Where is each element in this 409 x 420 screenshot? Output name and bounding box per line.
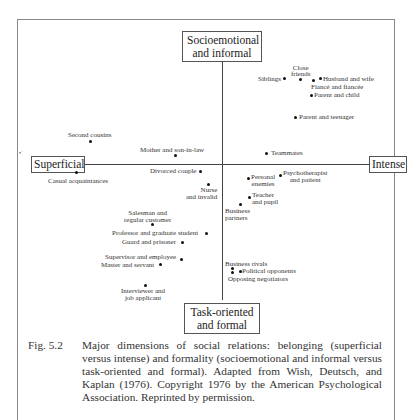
point-teammates: [265, 152, 268, 155]
point-siblings: [283, 77, 286, 80]
label-master: Master and servant: [101, 261, 154, 269]
label-fiance: Fiancé and fiancée: [311, 83, 363, 91]
point-fiance: [312, 79, 315, 82]
label-nurse-2: and invalid: [186, 194, 217, 201]
point-guard: [181, 241, 184, 244]
label-supervisor: Supervisor and employee: [105, 253, 176, 261]
point-psychotherapist: [279, 174, 282, 177]
point-professor: [205, 232, 208, 235]
label-second-cousins: Second cousins: [68, 131, 111, 139]
formality-axis: [222, 52, 223, 300]
point-parent-teen: [294, 116, 297, 119]
label-enemies-2: enemies: [251, 181, 275, 188]
label-opposing-negotiators: Opposing negotiators: [228, 275, 288, 283]
label-teacher-2: and pupil: [252, 199, 278, 206]
stray-marks: •˙: [19, 150, 23, 156]
point-close-friends: [299, 78, 302, 81]
point-casual: [75, 171, 78, 174]
label-enemies: Personal enemies: [251, 174, 275, 188]
label-professor: Professor and graduate student: [112, 229, 198, 237]
point-husband-wife: [319, 77, 322, 80]
label-partners-2: partners: [225, 215, 250, 222]
label-casual: Casual acquaintances: [48, 177, 108, 185]
point-business-rivals: [231, 267, 234, 270]
point-second-cousins: [89, 140, 92, 143]
label-political-opponents: Political opponents: [242, 267, 296, 275]
axis-label-top-line2: and informal: [187, 47, 257, 60]
point-master: [159, 263, 162, 266]
label-business-partners: Business partners: [225, 208, 250, 222]
point-opposing-negotiators: [231, 271, 234, 274]
label-salesman: Salesman and regular customer: [124, 210, 171, 224]
label-close-friends-2: friends: [291, 71, 310, 77]
label-teacher: Teacher and pupil: [252, 192, 278, 206]
label-husband-wife: Husband and wife: [323, 75, 374, 83]
axis-label-bottom: Task-oriented and formal: [184, 303, 260, 334]
caption-text: Major dimensions of social relations: be…: [82, 339, 382, 404]
label-mother-soninlaw: Mother and son-in-law: [140, 146, 204, 154]
label-interviewer-2: job applicant: [121, 295, 165, 302]
label-close-friends: Close friends: [291, 65, 310, 77]
point-mother-soninlaw: [174, 154, 177, 157]
label-nurse: Nurse and invalid: [186, 187, 217, 201]
label-salesman-2: regular customer: [124, 217, 171, 224]
label-parent-teen: Parent and teenager: [299, 113, 354, 121]
label-interviewer: Interviewer and job applicant: [121, 288, 165, 302]
belonging-axis: [84, 164, 369, 165]
point-divorced: [199, 170, 202, 173]
label-psychotherapist: Psychotherapist and patient: [283, 170, 327, 184]
axis-label-top-line1: Socioemotional: [187, 34, 257, 47]
label-siblings: Siblings: [258, 75, 281, 83]
axis-label-right: Intense: [369, 156, 407, 173]
point-business-partners: [239, 203, 242, 206]
label-guard: Guard and prisoner: [122, 238, 176, 246]
point-parent-child: [310, 94, 313, 97]
figure-number: Fig. 5.2: [28, 339, 63, 352]
axis-label-bottom-line2: and formal: [189, 319, 255, 332]
label-psych-2: and patient: [283, 177, 327, 184]
label-parent-child: Parent and child: [314, 91, 360, 99]
label-divorced: Divorced couple: [150, 167, 196, 175]
point-teacher: [248, 196, 251, 199]
point-salesman: [151, 223, 154, 226]
axis-label-top: Socioemotional and informal: [182, 31, 262, 62]
point-enemies: [247, 177, 250, 180]
point-supervisor: [180, 258, 183, 261]
label-teammates: Teammates: [271, 149, 303, 157]
axis-label-bottom-line1: Task-oriented: [189, 306, 255, 319]
